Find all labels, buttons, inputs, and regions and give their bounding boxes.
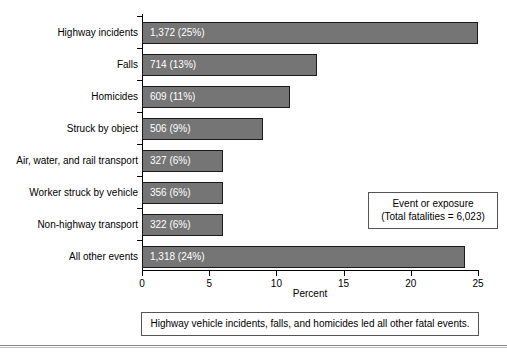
caption-text: Highway vehicle incidents, falls, and ho…: [148, 317, 472, 330]
x-axis-line: [142, 270, 479, 271]
bar-row[interactable]: 506 (9%): [142, 118, 478, 140]
category-label: Highway incidents: [0, 26, 138, 40]
bar-row[interactable]: 609 (11%): [142, 86, 478, 108]
plot-area: 1,372 (25%) 714 (13%) 609 (11%) 506 (9%)…: [142, 14, 478, 271]
x-axis-tick: [209, 271, 210, 276]
category-label: Falls: [0, 58, 138, 72]
y-axis-tick: [137, 80, 143, 81]
bar-value-label: 714 (13%): [150, 58, 196, 72]
y-axis-tick: [137, 48, 143, 49]
legend-title: Event or exposure: [372, 197, 494, 210]
legend-total: (Total fatalities = 6,023): [372, 210, 494, 223]
y-axis-tick: [137, 176, 143, 177]
category-label: All other events: [0, 250, 138, 264]
legend-box: Event or exposure (Total fatalities = 6,…: [368, 192, 498, 229]
x-axis-tick: [344, 271, 345, 276]
y-axis-tick: [137, 16, 143, 17]
x-axis-title: Percent: [142, 287, 478, 300]
y-axis-tick: [137, 112, 143, 113]
category-label: Air, water, and rail transport: [0, 154, 138, 168]
footer-divider-secondary: [0, 347, 507, 348]
caption-box: Highway vehicle incidents, falls, and ho…: [141, 312, 479, 336]
bar-value-label: 322 (6%): [150, 218, 191, 232]
category-label: Struck by object: [0, 122, 138, 136]
category-label: Worker struck by vehicle: [0, 186, 138, 200]
y-axis-tick: [137, 240, 143, 241]
y-axis-tick: [137, 144, 143, 145]
y-axis-tick: [137, 208, 143, 209]
bar-value-label: 609 (11%): [150, 90, 195, 104]
bar-row[interactable]: 1,372 (25%): [142, 22, 478, 44]
bar-value-label: 506 (9%): [150, 122, 191, 136]
bar-row[interactable]: 1,318 (24%): [142, 246, 478, 268]
x-axis-tick: [276, 271, 277, 276]
x-axis-tick: [411, 271, 412, 276]
footer-divider: [0, 345, 507, 346]
category-label: Homicides: [0, 90, 138, 104]
x-axis-tick: [142, 271, 143, 276]
category-label: Non-highway transport: [0, 218, 138, 232]
bar-row[interactable]: 714 (13%): [142, 54, 478, 76]
bar-row[interactable]: 327 (6%): [142, 150, 478, 172]
bar-value-label: 1,372 (25%): [150, 26, 204, 40]
bar-value-label: 356 (6%): [150, 186, 191, 200]
bar-value-label: 327 (6%): [150, 154, 191, 168]
figure-container: Highway incidents Falls Homicides Struck…: [0, 0, 507, 354]
x-axis-tick: [478, 271, 479, 276]
bar-value-label: 1,318 (24%): [150, 250, 204, 264]
